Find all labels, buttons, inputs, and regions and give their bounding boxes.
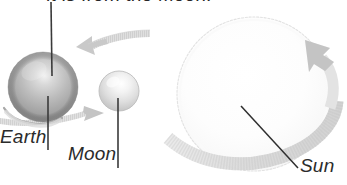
caption-text-clipped: it is from the Moon. [46, 0, 229, 4]
moon-label: Moon [68, 143, 116, 165]
earth-rotation-arrow [76, 30, 150, 55]
earth-sphere-icon [8, 52, 78, 122]
sun-label: Sun [300, 155, 334, 177]
moon-sphere-icon [99, 71, 139, 111]
solar-system-diagram: it is from the Moon. Earth Moon Sun [0, 0, 347, 185]
earth-label: Earth [0, 126, 46, 148]
diagram-canvas [0, 0, 347, 185]
caption-leader-line [51, 2, 52, 76]
caption-text: it is from the Moon. [46, 0, 212, 4]
